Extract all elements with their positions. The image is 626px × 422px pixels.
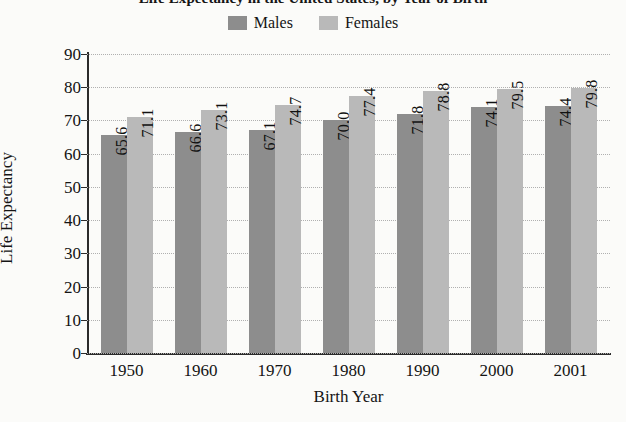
bar-males-1980: 70.0 <box>323 120 349 353</box>
y-tick-label: 10 <box>47 312 81 329</box>
x-tick-label-2000: 2000 <box>462 362 532 379</box>
bar-value-label: 78.8 <box>436 83 452 112</box>
bar-males-1970: 67.1 <box>249 130 275 353</box>
bar-females-1980: 77.4 <box>349 96 375 353</box>
chart-title: Life Expectancy in the United States, by… <box>0 0 626 7</box>
bar-females-2000: 79.5 <box>497 89 523 353</box>
y-tick-label: 50 <box>47 179 81 196</box>
bar-males-1950: 65.6 <box>101 135 127 353</box>
y-tick-label: 80 <box>47 79 81 96</box>
bar-value-label: 71.1 <box>140 108 156 137</box>
x-tick-label-1980: 1980 <box>314 362 384 379</box>
bar-females-1960: 73.1 <box>201 110 227 353</box>
y-axis-title: Life Expectancy <box>0 128 15 288</box>
x-tick-label-1960: 1960 <box>166 362 236 379</box>
x-tick-label-1970: 1970 <box>240 362 310 379</box>
y-tick-mark <box>81 353 87 354</box>
chart-legend: Males Females <box>0 15 626 31</box>
bar-males-2001: 74.4 <box>545 106 571 353</box>
bar-males-1960: 66.6 <box>175 132 201 353</box>
legend-label-females: Females <box>345 15 398 31</box>
bar-males-2000: 74.1 <box>471 107 497 353</box>
legend-swatch-males <box>228 16 247 30</box>
bar-females-1950: 71.1 <box>127 117 153 353</box>
bar-value-label: 79.8 <box>584 79 600 108</box>
bar-females-1970: 74.7 <box>275 105 301 353</box>
gridline <box>87 353 610 354</box>
x-axis-title: Birth Year <box>87 388 610 405</box>
x-tick-label-1950: 1950 <box>92 362 162 379</box>
y-tick-label: 0 <box>47 345 81 362</box>
y-tick-label: 90 <box>47 46 81 63</box>
legend-swatch-females <box>319 16 338 30</box>
bar-value-label: 79.5 <box>510 80 526 109</box>
legend-label-males: Males <box>254 15 293 31</box>
y-tick-label: 60 <box>47 146 81 163</box>
bar-value-label: 73.1 <box>214 102 230 131</box>
bar-females-1990: 78.8 <box>423 91 449 353</box>
y-tick-label: 20 <box>47 279 81 296</box>
life-expectancy-bar-chart: Life Expectancy in the United States, by… <box>0 0 626 422</box>
bar-males-1990: 71.8 <box>397 114 423 353</box>
y-tick-label: 30 <box>47 245 81 262</box>
bars-layer: 65.671.166.673.167.174.770.077.471.878.8… <box>87 54 610 353</box>
legend-item-females: Females <box>319 15 398 31</box>
y-tick-label: 40 <box>47 212 81 229</box>
legend-item-males: Males <box>228 15 293 31</box>
bar-value-label: 74.7 <box>288 96 304 125</box>
bar-females-2001: 79.8 <box>571 88 597 353</box>
y-tick-label: 70 <box>47 112 81 129</box>
bar-value-label: 77.4 <box>362 87 378 116</box>
x-tick-label-2001: 2001 <box>536 362 606 379</box>
x-tick-label-1990: 1990 <box>388 362 458 379</box>
